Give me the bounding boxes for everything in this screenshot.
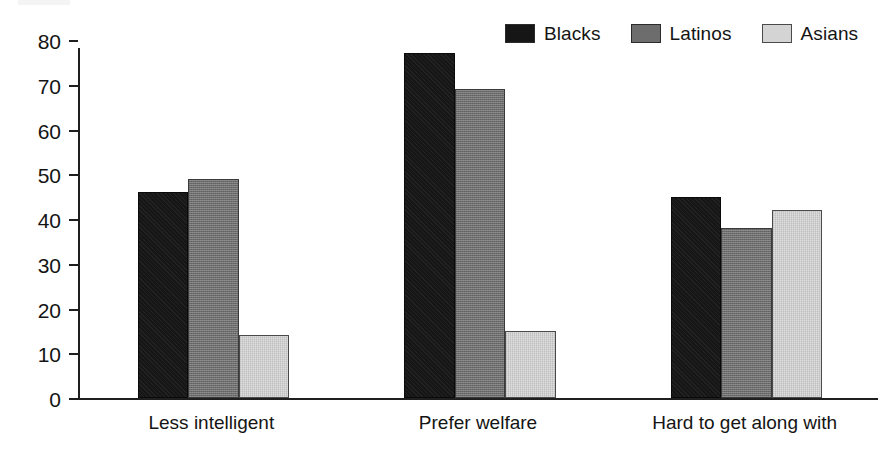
y-tick-label: 70 (38, 75, 61, 96)
x-axis-label: Less intelligent (148, 412, 274, 434)
x-axis-line (78, 398, 878, 400)
bars-layer (80, 40, 878, 398)
y-tick-mark: 0 (69, 398, 78, 400)
y-tick-mark: 10 (69, 353, 78, 355)
x-axis-label: Prefer welfare (419, 412, 537, 434)
y-tick-label: 0 (49, 389, 61, 410)
y-tick-label: 10 (38, 344, 61, 365)
x-axis-label: Hard to get along with (652, 412, 837, 434)
y-tick-label: 80 (38, 31, 61, 52)
y-tick-label: 60 (38, 120, 61, 141)
y-tick-label: 30 (38, 254, 61, 275)
bar-chart: BlacksLatinosAsians 01020304050607080 Le… (0, 0, 890, 451)
y-tick-label: 50 (38, 165, 61, 186)
bar (505, 331, 556, 398)
y-tick-mark: 80 (69, 40, 78, 42)
bar (721, 228, 772, 398)
y-tick-label: 20 (38, 299, 61, 320)
bar (671, 197, 722, 398)
y-tick-mark: 30 (69, 264, 78, 266)
x-axis-category-labels: Less intelligentPrefer welfareHard to ge… (78, 412, 878, 442)
scan-artifact (18, 0, 70, 5)
bar (188, 179, 239, 398)
bar (138, 192, 189, 398)
y-tick-mark: 40 (69, 219, 78, 221)
y-tick-mark: 60 (69, 130, 78, 132)
plot-area: 01020304050607080 (78, 40, 878, 400)
bar (239, 335, 290, 398)
bar (772, 210, 823, 398)
bar (455, 89, 506, 398)
y-tick-mark: 70 (69, 85, 78, 87)
y-tick-label: 40 (38, 210, 61, 231)
bar (404, 53, 455, 398)
y-tick-mark: 50 (69, 174, 78, 176)
y-tick-mark: 20 (69, 309, 78, 311)
